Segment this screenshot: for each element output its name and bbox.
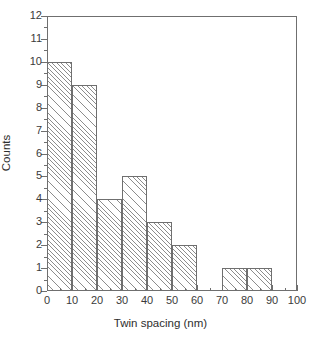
x-tick-major (247, 285, 248, 291)
y-tick-minor (44, 257, 47, 258)
x-tick-label: 90 (266, 295, 278, 306)
y-tick-label: 12 (30, 10, 42, 21)
histogram-bar (72, 85, 97, 291)
x-tick-label: 60 (191, 295, 203, 306)
x-tick-minor (160, 288, 161, 291)
histogram-bar (172, 245, 197, 291)
y-tick-label: 11 (31, 33, 42, 44)
y-tick-label: 10 (30, 56, 42, 67)
x-tick-label: 70 (216, 295, 228, 306)
y-tick-minor (44, 96, 47, 97)
x-tick-major (297, 285, 298, 291)
x-tick-minor (110, 288, 111, 291)
x-tick-minor (260, 288, 261, 291)
x-tick-major (97, 285, 98, 291)
y-tick-minor (44, 234, 47, 235)
histogram-bar (147, 222, 172, 291)
y-tick-label: 1 (36, 262, 42, 273)
y-tick-label: 3 (36, 216, 42, 227)
y-tick-label: 4 (36, 193, 42, 204)
x-tick-minor (185, 288, 186, 291)
y-tick-label: 0 (36, 285, 42, 296)
x-tick-label: 100 (288, 295, 306, 306)
y-tick-label: 7 (36, 125, 42, 136)
x-tick-minor (235, 288, 236, 291)
x-tick-major (147, 285, 148, 291)
y-axis-title: Counts (0, 135, 12, 171)
y-tick-minor (44, 73, 47, 74)
x-tick-major (272, 285, 273, 291)
y-tick-minor (44, 211, 47, 212)
x-tick-label: 50 (166, 295, 178, 306)
y-tick-minor (44, 27, 47, 28)
x-tick-major (122, 285, 123, 291)
histogram-chart: 0123456789101112 0102030405060708090100 … (0, 0, 321, 342)
x-tick-label: 30 (116, 295, 128, 306)
x-tick-major (172, 285, 173, 291)
x-tick-major (197, 285, 198, 291)
bars-layer (47, 16, 297, 291)
x-tick-label: 0 (44, 295, 50, 306)
x-tick-label: 80 (241, 295, 253, 306)
y-tick-minor (44, 119, 47, 120)
x-tick-label: 40 (141, 295, 153, 306)
histogram-bar (97, 199, 122, 291)
histogram-bar (47, 62, 72, 291)
y-tick-minor (44, 165, 47, 166)
x-tick-label: 10 (66, 295, 78, 306)
y-tick-label: 2 (36, 239, 42, 250)
x-tick-minor (285, 288, 286, 291)
x-tick-major (222, 285, 223, 291)
x-tick-minor (135, 288, 136, 291)
y-tick-label: 9 (36, 79, 42, 90)
x-tick-major (47, 285, 48, 291)
y-tick-minor (44, 142, 47, 143)
histogram-bar (122, 176, 147, 291)
x-tick-major (72, 285, 73, 291)
y-tick-label: 5 (36, 170, 42, 181)
x-tick-label: 20 (91, 295, 103, 306)
y-tick-minor (44, 188, 47, 189)
y-tick-minor (44, 280, 47, 281)
y-tick-label: 6 (36, 148, 42, 159)
x-tick-minor (210, 288, 211, 291)
x-axis-title: Twin spacing (nm) (0, 317, 321, 329)
y-tick-label: 8 (36, 102, 42, 113)
y-tick-minor (44, 50, 47, 51)
x-tick-minor (85, 288, 86, 291)
x-tick-minor (60, 288, 61, 291)
